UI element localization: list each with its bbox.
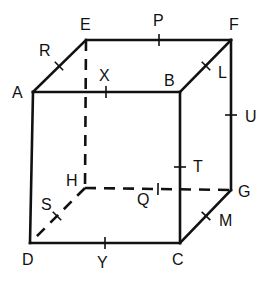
point-label-Y: Y	[97, 254, 108, 271]
vertex-label-G: G	[238, 183, 250, 200]
point-label-L: L	[218, 64, 227, 81]
point-label-S: S	[41, 196, 52, 213]
point-label-X: X	[99, 67, 110, 84]
vertex-label-H: H	[66, 172, 78, 189]
cube-diagram: RPXLUTQSMYABCDEFGH	[0, 0, 267, 282]
point-label-T: T	[193, 158, 203, 175]
point-label-M: M	[219, 212, 232, 229]
vertex-label-B: B	[164, 72, 175, 89]
edge-DA	[30, 92, 33, 243]
vertex-label-D: D	[22, 251, 34, 268]
vertex-label-F: F	[229, 16, 239, 33]
vertex-label-C: C	[172, 251, 184, 268]
point-label-R: R	[39, 42, 51, 59]
vertex-label-E: E	[80, 16, 91, 33]
hidden-edge-EH	[85, 40, 86, 188]
point-label-P: P	[153, 12, 164, 29]
point-label-U: U	[245, 108, 257, 125]
point-label-Q: Q	[137, 191, 149, 208]
vertex-label-A: A	[12, 84, 23, 101]
